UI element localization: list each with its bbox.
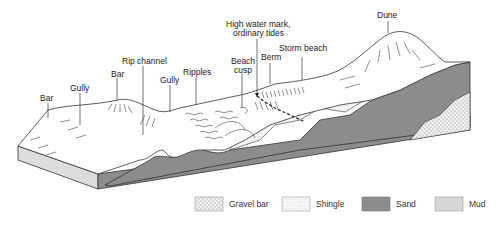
label-bar-2: Bar <box>111 69 124 79</box>
legend-item-sand: Sand <box>362 197 416 211</box>
label-gully-1: Gully <box>70 83 90 93</box>
legend-item-shingle: Shingle <box>282 197 345 211</box>
label-gully-2: Gully <box>160 75 180 85</box>
label-storm-beach: Storm beach <box>279 43 327 53</box>
legend: Gravel bar Shingle Sand Mud <box>195 197 486 211</box>
label-beach-cusp-2: cusp <box>234 65 252 75</box>
sand-label: Sand <box>396 199 416 209</box>
beach-block-diagram: Bar Gully Bar Rip channel Gully Ripples … <box>0 0 501 226</box>
gravel-bar-label: Gravel bar <box>229 199 269 209</box>
label-berm: Berm <box>261 52 281 62</box>
mud-label: Mud <box>469 199 486 209</box>
legend-item-mud: Mud <box>435 197 486 211</box>
sand-swatch <box>362 197 390 211</box>
label-rip-channel: Rip channel <box>122 56 167 66</box>
gravel-bar-swatch <box>195 197 223 211</box>
label-high-water-2: ordinary tides <box>233 28 284 38</box>
mud-swatch <box>435 197 463 211</box>
shingle-label: Shingle <box>316 199 345 209</box>
shingle-swatch <box>282 197 310 211</box>
legend-item-gravel-bar: Gravel bar <box>195 197 269 211</box>
label-ripples: Ripples <box>183 67 211 77</box>
label-dune: Dune <box>377 10 398 20</box>
label-bar-1: Bar <box>40 93 53 103</box>
